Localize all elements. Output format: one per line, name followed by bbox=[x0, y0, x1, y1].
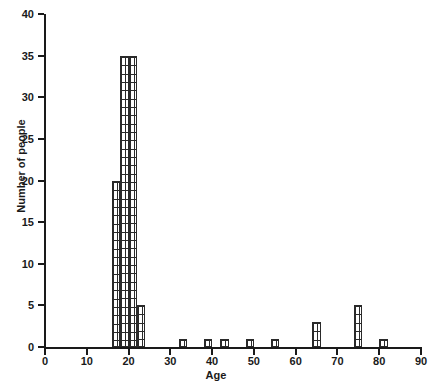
x-axis-title: Age bbox=[0, 369, 432, 381]
histogram-bar bbox=[137, 305, 145, 347]
x-axis-tick-label: 80 bbox=[364, 356, 394, 367]
y-axis-tick bbox=[38, 221, 44, 223]
histogram-bar bbox=[246, 339, 254, 347]
y-axis-title: Number of people bbox=[15, 96, 27, 236]
y-axis-tick bbox=[38, 263, 44, 265]
histogram-bar bbox=[179, 339, 187, 347]
x-axis-tick-label: 30 bbox=[155, 356, 185, 367]
y-axis-tick bbox=[38, 180, 44, 182]
histogram-chart: 0510152025303540 0102030405060708090 Num… bbox=[0, 0, 432, 387]
x-axis-tick-label: 70 bbox=[322, 356, 352, 367]
histogram-bar bbox=[354, 305, 362, 347]
histogram-bar bbox=[112, 181, 120, 348]
y-axis-tick bbox=[38, 138, 44, 140]
y-axis-tick-label: 5 bbox=[0, 300, 34, 311]
histogram-bar bbox=[220, 339, 228, 347]
y-axis-tick-label: 10 bbox=[0, 259, 34, 270]
y-axis-tick bbox=[38, 13, 44, 15]
x-axis-tick-label: 60 bbox=[281, 356, 311, 367]
y-axis-tick bbox=[38, 55, 44, 57]
x-axis-tick-label: 10 bbox=[72, 356, 102, 367]
x-axis-tick-label: 90 bbox=[406, 356, 432, 367]
y-axis-tick bbox=[38, 346, 44, 348]
histogram-bar bbox=[204, 339, 212, 347]
histogram-bar bbox=[271, 339, 279, 347]
x-axis-tick-label: 40 bbox=[197, 356, 227, 367]
y-axis-tick-label: 35 bbox=[0, 51, 34, 62]
y-axis-tick-label: 40 bbox=[0, 9, 34, 20]
x-axis-tick-label: 50 bbox=[239, 356, 269, 367]
histogram-bar bbox=[120, 56, 128, 347]
histogram-bar bbox=[129, 56, 137, 347]
plot-area bbox=[0, 0, 432, 387]
histogram-bar bbox=[312, 322, 320, 347]
y-axis-tick bbox=[38, 96, 44, 98]
histogram-bar bbox=[379, 339, 387, 347]
y-axis-tick bbox=[38, 304, 44, 306]
x-axis-tick-label: 0 bbox=[30, 356, 60, 367]
x-axis-tick-label: 20 bbox=[114, 356, 144, 367]
y-axis-tick-label: 0 bbox=[0, 342, 34, 353]
